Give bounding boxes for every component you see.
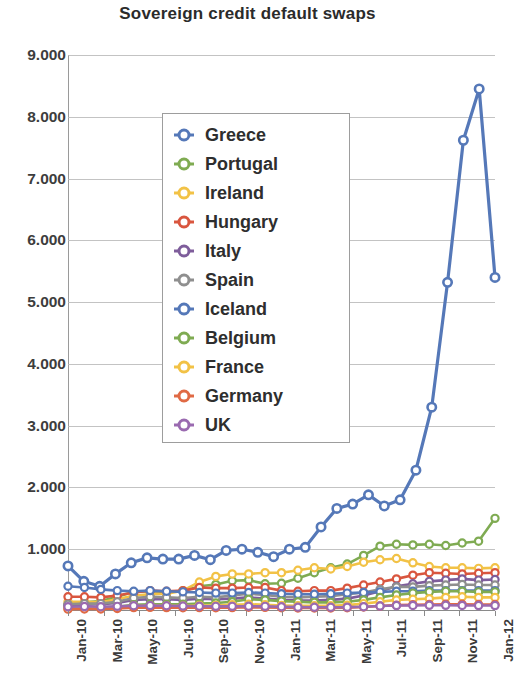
data-point [81,584,88,591]
legend-item-label: Portugal [205,155,278,173]
data-point [344,589,351,596]
legend-item-germany[interactable]: Germany [163,381,349,410]
y-axis-tick-label: 9.000 [4,46,66,64]
data-point [179,588,186,595]
y-axis-tick-label: 3.000 [4,417,66,435]
data-point [393,555,400,562]
data-point [344,604,351,611]
legend-item-italy[interactable]: Italy [163,236,349,265]
legend-marker-icon [173,385,195,407]
data-point [278,569,285,576]
data-point [278,590,285,597]
data-point [459,539,466,546]
x-axis-tick-label: Mar-11 [323,619,338,662]
legend-item-greece[interactable]: Greece [163,120,349,149]
x-axis-tick-label: May-10 [145,619,160,665]
data-point [311,604,318,611]
data-point [491,602,498,609]
data-point [412,466,420,474]
data-point [442,542,449,549]
x-axis-tick [424,611,425,616]
data-point [301,543,309,551]
legend-item-label: Hungary [205,213,278,231]
legend-marker-icon [173,240,195,262]
y-axis-tick-label: 8.000 [4,108,66,126]
data-point [229,589,236,596]
data-point [97,586,104,593]
data-point [327,565,334,572]
data-point [428,403,436,411]
data-point [409,602,416,609]
data-point [212,573,219,580]
legend-item-iceland[interactable]: Iceland [163,294,349,323]
data-point [143,554,151,562]
data-point [261,603,268,610]
data-point [64,583,71,590]
x-axis-tick [317,611,318,616]
data-point [409,541,416,548]
y-axis-tick-label: 4.000 [4,355,66,373]
data-point [393,602,400,609]
legend-item-ireland[interactable]: Ireland [163,178,349,207]
x-axis-tick [68,611,69,616]
data-point [175,555,183,563]
x-axis-tick-label: Mar-10 [110,619,125,663]
y-axis-tick-label: 1.000 [4,540,66,558]
data-point [254,548,262,556]
legend-marker-icon [173,153,195,175]
data-point [426,541,433,548]
data-point [348,500,356,508]
x-axis-tick [175,611,176,616]
legend-item-portugal[interactable]: Portugal [163,149,349,178]
x-axis-tick [139,611,140,616]
data-point [64,603,71,610]
legend-marker-icon [173,182,195,204]
data-point [393,575,400,582]
data-point [491,273,499,281]
legend-item-label: Greece [205,126,266,144]
x-axis-tick-label: Jan-12 [501,619,516,662]
legend-item-uk[interactable]: UK [163,410,349,439]
data-point [409,559,416,566]
legend-item-label: Ireland [205,184,264,202]
data-point [376,578,383,585]
x-axis-tick-label: Nov-11 [465,619,480,663]
x-axis-tick-label: Jul-11 [394,619,409,657]
data-point [426,569,433,576]
legend-item-label: Spain [205,271,254,289]
chart-legend: GreecePortugalIrelandHungaryItalySpainIc… [162,113,350,443]
legend-item-belgium[interactable]: Belgium [163,323,349,352]
data-point [179,602,186,609]
x-axis-tick [495,611,496,616]
data-point [327,590,334,597]
legend-marker-icon [173,298,195,320]
data-point [285,545,293,553]
legend-item-spain[interactable]: Spain [163,265,349,294]
data-point [212,603,219,610]
data-point [196,603,203,610]
data-point [261,569,268,576]
data-point [64,562,72,570]
data-point [364,491,372,499]
data-point [130,602,137,609]
data-point [380,502,388,510]
data-point [475,538,482,545]
data-point [147,602,154,609]
data-point [393,541,400,548]
data-point [311,591,318,598]
data-point [443,278,451,286]
data-point [163,588,170,595]
legend-item-label: Belgium [205,329,276,347]
data-point [206,556,214,564]
data-point [147,587,154,594]
data-point [317,523,325,531]
data-point [294,591,301,598]
data-point [360,589,367,596]
legend-item-france[interactable]: France [163,352,349,381]
data-point [327,604,334,611]
legend-item-hungary[interactable]: Hungary [163,207,349,236]
x-axis-tick [459,611,460,616]
legend-item-label: France [205,358,264,376]
data-point [64,593,71,600]
